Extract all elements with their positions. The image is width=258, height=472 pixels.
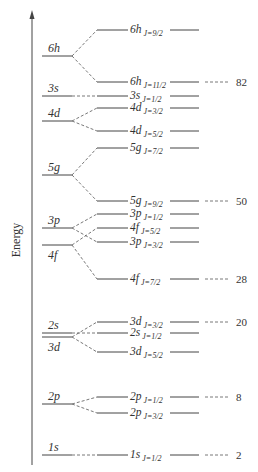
split-level-label: 2pJ=1/2 bbox=[130, 390, 163, 405]
unsplit-level-label: 4f bbox=[48, 248, 59, 262]
split-level-label: 3pJ=1/2 bbox=[129, 207, 163, 222]
axis-label: Energy bbox=[9, 223, 23, 257]
connector-dash bbox=[72, 148, 97, 175]
split-level-label: 1sJ=1/2 bbox=[130, 448, 161, 463]
connector-dash bbox=[72, 397, 97, 404]
energy-axis: Energy bbox=[9, 10, 35, 465]
split-level-label: 5gJ=7/2 bbox=[130, 141, 163, 156]
unsplit-level-label: 6h bbox=[48, 41, 60, 55]
split-level-label: 2pJ=3/2 bbox=[130, 406, 163, 421]
connector-dash bbox=[72, 322, 97, 337]
split-level-label: 3pJ=3/2 bbox=[129, 235, 163, 250]
connector-dash bbox=[72, 337, 97, 352]
magic-number-label: 82 bbox=[236, 76, 247, 88]
unsplit-level-label: 1s bbox=[48, 440, 59, 454]
connector-dash bbox=[72, 245, 97, 279]
magic-number-label: 2 bbox=[236, 449, 242, 461]
axis-arrow-icon bbox=[30, 10, 35, 19]
magic-number-label: 28 bbox=[236, 273, 248, 285]
magic-number-label: 20 bbox=[236, 316, 248, 328]
connector-dash bbox=[72, 121, 97, 131]
split-level-label: 6hJ=11/2 bbox=[130, 75, 166, 90]
split-level-label: 6hJ=9/2 bbox=[130, 23, 163, 38]
connector-dash bbox=[72, 214, 97, 228]
split-level-label: 3dJ=5/2 bbox=[129, 345, 163, 360]
magic-number-label: 50 bbox=[236, 195, 248, 207]
split-levels: 6hJ=9/26hJ=11/23sJ=1/24dJ=3/24dJ=5/25gJ=… bbox=[97, 23, 199, 463]
magic-number-label: 8 bbox=[236, 391, 242, 403]
unsplit-level-label: 4d bbox=[48, 106, 61, 120]
connector-dash bbox=[72, 175, 97, 201]
connector-dash bbox=[72, 56, 97, 82]
split-level-label: 4fJ=5/2 bbox=[130, 221, 160, 236]
unsplit-level-label: 2s bbox=[48, 318, 59, 332]
unsplit-level-label: 3p bbox=[47, 213, 60, 227]
unsplit-level-label: 5g bbox=[48, 160, 60, 174]
unsplit-level-label: 2p bbox=[48, 389, 60, 403]
connector-dash bbox=[72, 108, 97, 121]
connector-dash bbox=[72, 404, 97, 413]
shell-model-diagram: Energy 6h3s4d5g3p4f2s3d2p1s 6hJ=9/26hJ=1… bbox=[0, 0, 258, 472]
unsplit-level-label: 3s bbox=[47, 81, 59, 95]
unsplit-levels: 6h3s4d5g3p4f2s3d2p1s bbox=[42, 41, 72, 455]
splitting-connectors bbox=[72, 30, 97, 455]
split-level-label: 4dJ=5/2 bbox=[130, 124, 163, 139]
split-level-label: 4fJ=7/2 bbox=[130, 272, 160, 287]
magic-numbers: 8250282082 bbox=[205, 76, 248, 461]
connector-dash bbox=[72, 228, 97, 245]
unsplit-level-label: 3d bbox=[47, 340, 61, 354]
connector-dash bbox=[72, 30, 97, 56]
